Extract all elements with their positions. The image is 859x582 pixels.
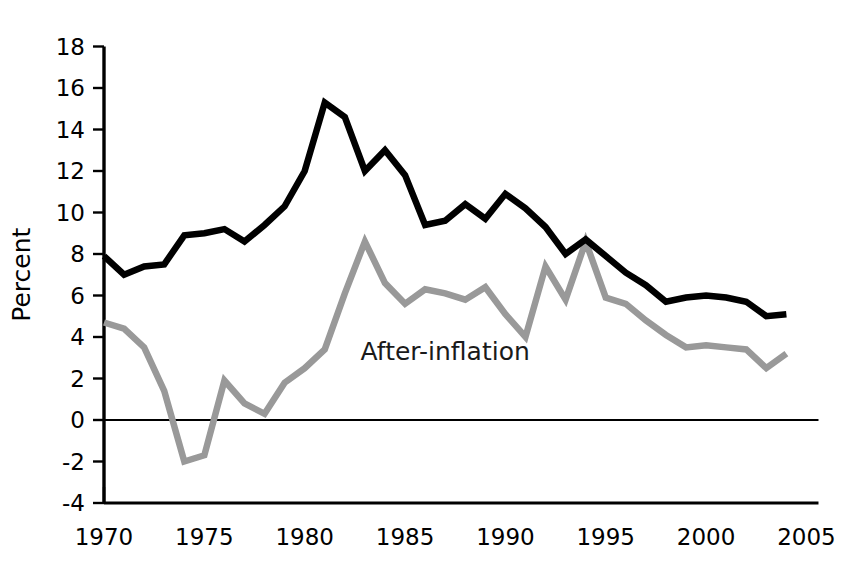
x-tick-label: 1995 [576,524,635,550]
y-tick-label: 8 [70,241,85,267]
y-tick-label: 14 [56,117,85,143]
x-tick-label: 1980 [275,524,334,550]
series-line-nominal [104,103,786,317]
x-tick-label: 1975 [175,524,234,550]
x-tick-label: 1990 [476,524,535,550]
y-tick-label: -4 [62,490,85,516]
y-tick-label: 10 [56,200,85,226]
y-tick-label: 16 [56,75,85,101]
x-tick-label: 1985 [376,524,435,550]
y-tick-label: 18 [56,34,85,60]
y-axis-ticks: -4-2024681012141618 [56,34,104,517]
y-tick-label: 4 [70,324,85,350]
series-annotation-after-inflation: After-inflation [361,337,530,366]
y-tick-label: 0 [70,407,85,433]
y-axis-title: Percent [7,228,36,322]
line-chart: -4-2024681012141618197019751980198519901… [0,0,859,582]
x-tick-label: 1970 [75,524,134,550]
chart-container: -4-2024681012141618197019751980198519901… [0,0,859,582]
x-axis-ticks: 19701975198019851990199520002005 [75,487,836,550]
y-tick-label: 2 [70,366,85,392]
x-tick-label: 2005 [777,524,836,550]
y-tick-label: 12 [56,158,85,184]
y-tick-label: 6 [70,283,85,309]
y-tick-label: -2 [62,449,85,475]
x-tick-label: 2000 [677,524,736,550]
